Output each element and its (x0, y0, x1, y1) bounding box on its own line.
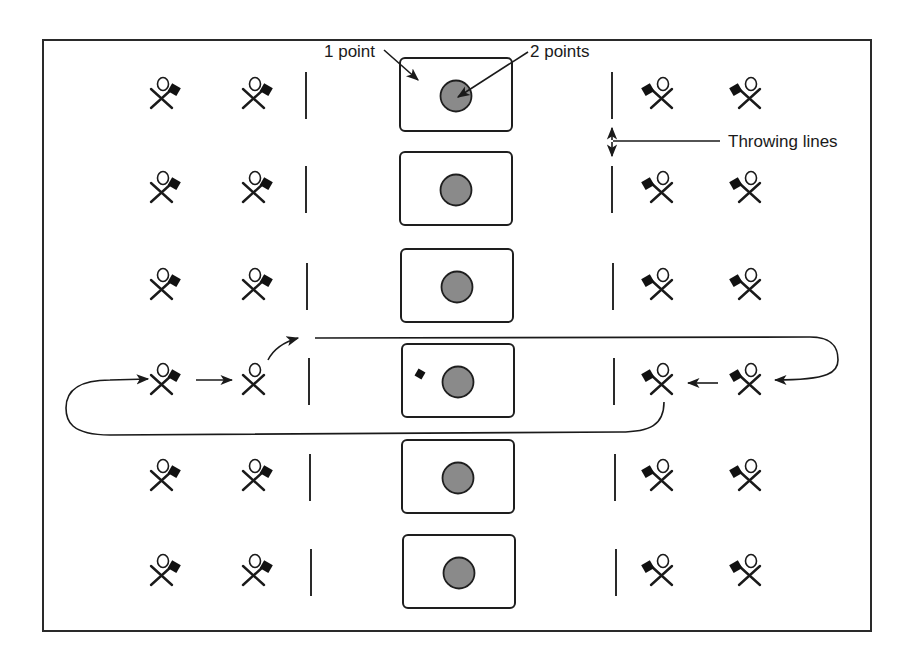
player-head (250, 78, 261, 91)
bean-bag-icon (641, 560, 654, 573)
player-head (158, 78, 169, 91)
player-left-2-icon (243, 555, 273, 586)
bean-bag-icon (260, 83, 273, 96)
target-hole (441, 175, 472, 206)
court-row-1 (151, 58, 760, 131)
bean-bag-icon (168, 465, 181, 478)
player-left-1-icon (151, 555, 181, 586)
target-hole (442, 272, 473, 303)
player-head (158, 269, 169, 282)
target-hole (441, 81, 472, 112)
bean-bag-icon (641, 83, 654, 96)
player-head (250, 460, 261, 473)
bean-bag-icon (641, 274, 654, 287)
target-hole (443, 463, 474, 494)
player-head (658, 172, 669, 185)
bag-toss-diagram: 1 point 2 points Throwing lines (0, 0, 905, 658)
player-left-1-icon (151, 172, 181, 203)
court-row-5 (151, 440, 760, 513)
player-head (250, 269, 261, 282)
player-head (658, 269, 669, 282)
player-right-2-icon (729, 460, 760, 491)
bean-bag-icon (168, 274, 181, 287)
hole-points-label: 2 points (530, 42, 590, 61)
bean-bag-icon (168, 83, 181, 96)
player-head (250, 172, 261, 185)
player-head (658, 555, 669, 568)
player-head (746, 364, 757, 377)
player-head (250, 555, 261, 568)
player-left-1-icon (151, 269, 181, 300)
bean-bag-icon (641, 465, 654, 478)
court-row-3 (151, 249, 760, 322)
bean-bag-icon (260, 560, 273, 573)
player-right-2-icon (729, 364, 760, 395)
court-row-6 (151, 535, 760, 608)
player-left-1-icon (151, 460, 181, 491)
player-head (158, 460, 169, 473)
player-head (746, 172, 757, 185)
throwing-lines-label: Throwing lines (728, 132, 838, 151)
bean-bag-icon (729, 560, 742, 573)
player-right-1-icon (641, 364, 672, 395)
bean-bag-icon (168, 177, 181, 190)
bean-bag-icon (641, 177, 654, 190)
player-head (746, 460, 757, 473)
player-head (658, 364, 669, 377)
bean-bag-icon (729, 177, 742, 190)
cross-arrow-start (268, 338, 298, 360)
player-left-2-icon (243, 78, 273, 109)
player-head (158, 364, 169, 377)
player-head (158, 172, 169, 185)
rotation-loop-left (66, 379, 664, 435)
bean-bag-icon (260, 465, 273, 478)
player-head (658, 460, 669, 473)
bean-bag-icon (260, 274, 273, 287)
bean-bag-icon (729, 465, 742, 478)
bean-bag-icon (168, 560, 181, 573)
player-right-1-icon (641, 555, 672, 586)
player-left-1-icon (151, 78, 181, 109)
player-head (250, 364, 261, 377)
player-left-2-icon (243, 364, 264, 395)
bean-bag-icon (168, 369, 181, 382)
box-points-label: 1 point (324, 42, 375, 61)
player-right-2-icon (729, 555, 760, 586)
player-right-1-icon (641, 460, 672, 491)
bean-bag-icon (729, 369, 742, 382)
player-head (746, 555, 757, 568)
player-right-2-icon (729, 172, 760, 203)
target-hole (444, 558, 475, 589)
bean-bag-icon (260, 177, 273, 190)
player-left-2-icon (243, 460, 273, 491)
player-head (658, 78, 669, 91)
player-right-2-icon (729, 269, 760, 300)
player-left-2-icon (243, 269, 273, 300)
player-right-1-icon (641, 172, 672, 203)
court-row-4 (151, 344, 760, 417)
target-hole (443, 367, 474, 398)
player-head (158, 555, 169, 568)
player-right-2-icon (729, 78, 760, 109)
throwing-lines-annotation: Throwing lines (612, 128, 838, 156)
player-right-1-icon (641, 269, 672, 300)
court-row-2 (151, 152, 760, 225)
player-head (746, 269, 757, 282)
bean-bag-icon (729, 83, 742, 96)
rotation-loop-right (315, 337, 838, 380)
player-right-1-icon (641, 78, 672, 109)
player-left-2-icon (243, 172, 273, 203)
bean-bag-icon (729, 274, 742, 287)
player-head (746, 78, 757, 91)
player-left-1-icon (151, 364, 181, 395)
bean-bag-icon (641, 369, 654, 382)
